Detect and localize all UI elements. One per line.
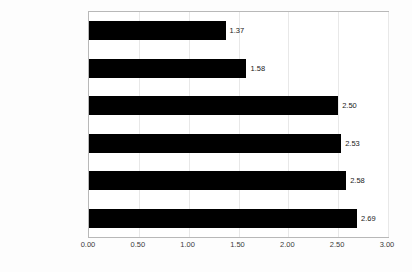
x-axis-tick-labels: 0.000.501.001.502.002.503.00 (88, 240, 389, 254)
bar-chart: 1.371.582.502.532.582.69 Zufriedenheit d… (0, 0, 412, 272)
bar-row: 2.69 (89, 200, 388, 238)
bar-value-label: 2.53 (345, 135, 360, 152)
bar-row: 1.37 (89, 12, 388, 50)
bar-row: 2.50 (89, 87, 388, 125)
bar-row: 1.58 (89, 50, 388, 88)
x-tick-label: 0.50 (131, 240, 146, 249)
gridline (388, 12, 389, 237)
bar[interactable] (89, 171, 346, 190)
x-tick-label: 1.00 (180, 240, 195, 249)
x-tick-label: 2.00 (280, 240, 295, 249)
bar-value-label: 2.50 (342, 97, 357, 114)
x-tick-label: 3.00 (380, 240, 395, 249)
x-tick-label: 2.50 (330, 240, 345, 249)
bar-value-label: 2.69 (361, 210, 376, 227)
bar[interactable] (89, 21, 226, 40)
bar[interactable] (89, 96, 338, 115)
bar-row: 2.53 (89, 125, 388, 163)
x-tick-label: 1.50 (230, 240, 245, 249)
bar[interactable] (89, 209, 357, 228)
bar-value-label: 1.37 (230, 22, 245, 39)
bar[interactable] (89, 134, 341, 153)
bar-value-label: 1.58 (250, 60, 265, 77)
bar-value-label: 2.58 (350, 172, 365, 189)
bar[interactable] (89, 59, 246, 78)
x-tick-label: 0.00 (81, 240, 96, 249)
plot-area: 1.371.582.502.532.582.69 (88, 11, 389, 238)
bar-row: 2.58 (89, 162, 388, 200)
